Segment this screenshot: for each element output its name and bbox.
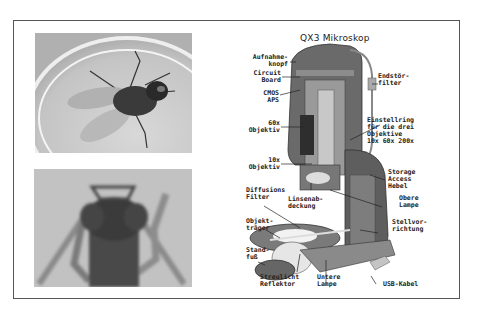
label-untere-lampe: Untere Lampe (317, 274, 340, 288)
label-linsenabdeckung: Linsenab- deckung (288, 196, 323, 210)
label-obere-lampe: Obere Lampe (399, 195, 419, 209)
label-cmos-aps: CMOS APS (244, 90, 279, 104)
label-standfuss: Stand- fuß (246, 247, 269, 261)
label-usb-kabel: USB-Kabel (383, 281, 418, 288)
label-60x-objektiv: 60x Objektiv (240, 120, 280, 134)
label-stellvorrichtung: Stellvor- richtung (392, 219, 427, 233)
label-aufnahmeknopf: Aufnahme- knopf (244, 54, 288, 68)
label-diffusions-filter: Diffusions Filter (246, 187, 285, 201)
label-streulicht-reflektor: Streulicht Reflektor (260, 274, 299, 288)
label-10x-objektiv: 10x Objektiv (240, 157, 280, 171)
label-objekttraeger: Objekt- träger (246, 218, 273, 232)
label-circuit-board: Circuit Board (244, 70, 281, 84)
label-einstellring: Einstellring für die drei Objektive 10x … (367, 117, 414, 145)
label-endstorfilter: Endstör- filter (378, 73, 409, 87)
label-storage-access-hebel: Storage Access Hebel (388, 169, 415, 190)
